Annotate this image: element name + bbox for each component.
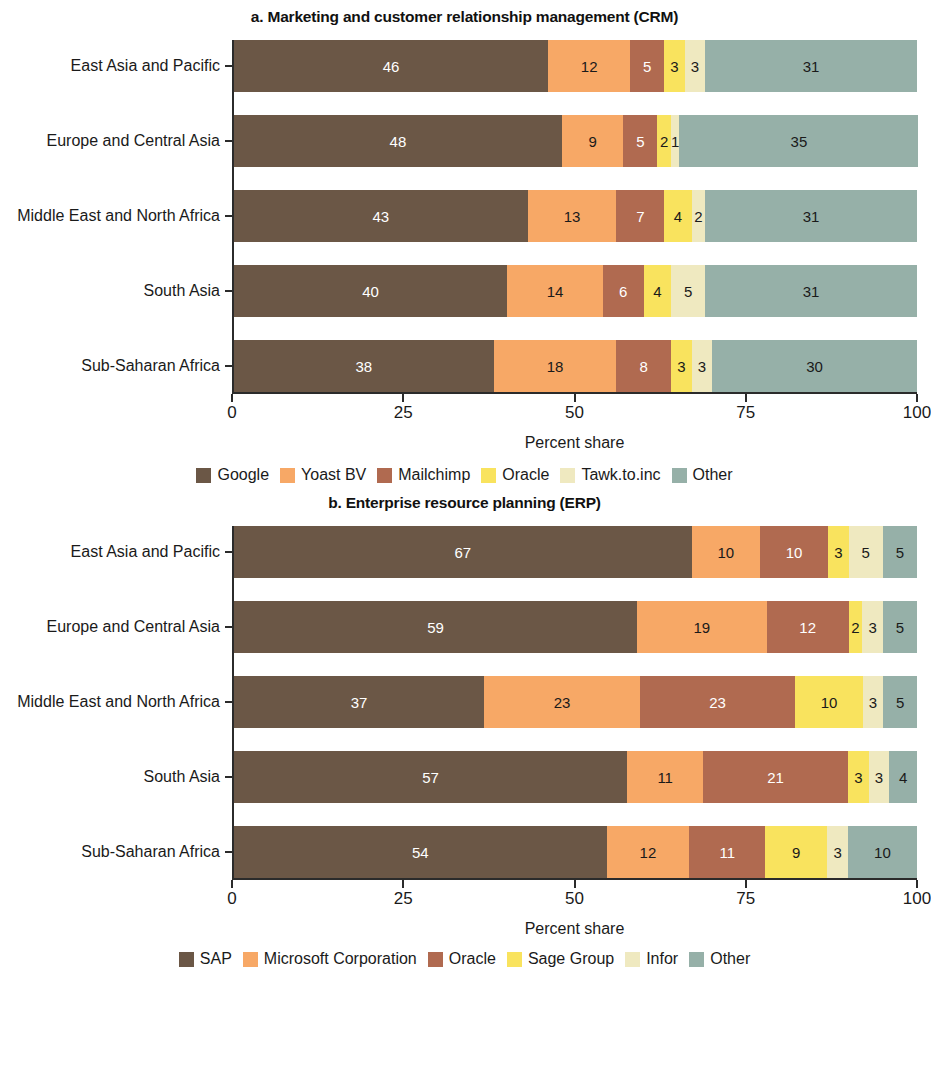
legend-item: Other — [689, 950, 750, 968]
bar-segment: 31 — [705, 40, 917, 92]
stacked-bar: 571121334 — [234, 751, 917, 803]
stacked-bar: 591912235 — [234, 601, 917, 653]
bar-segment: 3 — [827, 826, 848, 878]
stacked-bar: 401464531 — [234, 265, 917, 317]
bar-segment: 23 — [484, 676, 640, 728]
panel-b-bar-rows: East Asia and Pacific671010355Europe and… — [232, 526, 917, 878]
legend-item: Yoast BV — [280, 466, 366, 484]
x-axis-tick-label: 100 — [903, 403, 931, 423]
category-label: East Asia and Pacific — [71, 543, 220, 561]
bar-segment-value: 4 — [674, 209, 682, 224]
x-axis-tick — [574, 394, 576, 402]
legend-label: Oracle — [502, 466, 549, 484]
category-label: South Asia — [144, 768, 221, 786]
bar-segment: 5 — [849, 526, 883, 578]
category-label: Middle East and North Africa — [17, 207, 220, 225]
bar-row: South Asia571121334 — [234, 751, 917, 803]
legend-label: Google — [217, 466, 269, 484]
bar-segment-value: 3 — [868, 620, 876, 635]
legend-label: Sage Group — [528, 950, 614, 968]
x-axis-tick — [231, 880, 233, 888]
bar-segment-value: 35 — [791, 134, 808, 149]
bar-segment: 4 — [644, 265, 671, 317]
panel-b: b. Enterprise resource planning (ERP) Ea… — [0, 484, 929, 968]
legend-label: Tawk.to.inc — [581, 466, 660, 484]
bar-segment: 4 — [889, 751, 917, 803]
bar-segment: 3 — [863, 676, 883, 728]
bar-segment-value: 40 — [362, 284, 379, 299]
legend-swatch-icon — [560, 468, 575, 483]
bar-segment: 5 — [883, 676, 917, 728]
legend-swatch-icon — [625, 952, 640, 967]
bar-segment: 5 — [883, 526, 917, 578]
bar-segment-value: 3 — [698, 359, 706, 374]
bar-segment-value: 30 — [806, 359, 823, 374]
bar-segment-value: 5 — [636, 134, 644, 149]
bar-row: South Asia401464531 — [234, 265, 917, 317]
y-axis-tick — [225, 140, 234, 142]
bar-segment: 3 — [692, 340, 712, 392]
legend-swatch-icon — [196, 468, 211, 483]
panel-a-bar-rows: East Asia and Pacific461253331Europe and… — [232, 40, 917, 392]
bar-segment: 18 — [494, 340, 617, 392]
legend-swatch-icon — [428, 952, 443, 967]
bar-segment: 3 — [828, 526, 848, 578]
bar-row: Middle East and North Africa3723231035 — [234, 676, 917, 728]
y-axis-tick — [225, 626, 234, 628]
bar-segment: 10 — [692, 526, 760, 578]
legend-swatch-icon — [179, 952, 194, 967]
bar-segment: 2 — [657, 115, 671, 167]
bar-segment: 67 — [234, 526, 692, 578]
legend-label: Mailchimp — [398, 466, 470, 484]
bar-segment: 19 — [637, 601, 767, 653]
bar-segment-value: 43 — [373, 209, 390, 224]
bar-segment-value: 3 — [833, 845, 841, 860]
legend-swatch-icon — [672, 468, 687, 483]
x-axis-tick — [745, 880, 747, 888]
bar-segment: 8 — [616, 340, 671, 392]
bar-segment-value: 11 — [719, 845, 735, 860]
category-label: Europe and Central Asia — [47, 132, 220, 150]
bar-segment-value: 2 — [660, 134, 668, 149]
legend-item: Oracle — [481, 466, 549, 484]
bar-segment: 57 — [234, 751, 627, 803]
bar-segment-value: 3 — [869, 695, 877, 710]
x-axis-tick-label: 0 — [227, 889, 236, 909]
bar-segment: 4 — [664, 190, 691, 242]
bar-segment-value: 8 — [640, 359, 648, 374]
y-axis-tick — [225, 65, 234, 67]
bar-segment: 11 — [627, 751, 703, 803]
legend-label: Yoast BV — [301, 466, 366, 484]
bar-segment-value: 21 — [767, 770, 784, 785]
bar-segment-value: 5 — [862, 545, 870, 560]
category-label: Europe and Central Asia — [47, 618, 220, 636]
bar-segment: 30 — [712, 340, 917, 392]
bar-segment-value: 3 — [875, 770, 883, 785]
bar-segment-value: 57 — [422, 770, 439, 785]
y-axis-tick — [225, 551, 234, 553]
bar-segment: 37 — [234, 676, 484, 728]
bar-segment-value: 2 — [694, 209, 702, 224]
x-axis-tick-label: 100 — [903, 889, 931, 909]
bar-segment-value: 9 — [792, 845, 800, 860]
bar-segment: 21 — [703, 751, 848, 803]
legend-item: Microsoft Corporation — [243, 950, 417, 968]
bar-segment: 10 — [760, 526, 828, 578]
stacked-bar: 5412119310 — [234, 826, 917, 878]
bar-segment-value: 31 — [803, 284, 820, 299]
bar-segment: 35 — [679, 115, 918, 167]
panel-a: a. Marketing and customer relationship m… — [0, 0, 929, 484]
x-axis-tick — [231, 394, 233, 402]
bar-segment-value: 5 — [643, 59, 651, 74]
bar-segment: 43 — [234, 190, 528, 242]
panel-b-legend: SAPMicrosoft CorporationOracleSage Group… — [0, 950, 929, 968]
bar-segment: 6 — [603, 265, 644, 317]
bar-segment-value: 4 — [899, 770, 907, 785]
bar-segment: 12 — [767, 601, 849, 653]
bar-row: Middle East and North Africa431374231 — [234, 190, 917, 242]
bar-segment-value: 54 — [412, 845, 429, 860]
bar-segment-value: 4 — [653, 284, 661, 299]
bar-segment: 10 — [795, 676, 863, 728]
legend-item: Infor — [625, 950, 678, 968]
